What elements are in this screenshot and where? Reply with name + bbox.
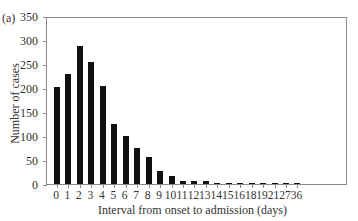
x-tick-label: 15 — [222, 189, 234, 201]
x-tick — [252, 184, 253, 188]
x-tick — [206, 184, 207, 188]
x-tick — [172, 184, 173, 188]
bar — [100, 86, 106, 184]
y-tick — [43, 185, 47, 186]
y-tick — [43, 113, 47, 114]
x-tick — [275, 184, 276, 188]
x-tick-label: 11 — [176, 189, 187, 201]
x-axis-title: Interval from onset to admission (days) — [98, 203, 287, 218]
x-tick — [114, 184, 115, 188]
x-tick-label: 36 — [291, 189, 303, 201]
x-tick — [183, 184, 184, 188]
y-tick — [43, 65, 47, 66]
x-tick-label: 9 — [156, 189, 162, 201]
x-tick-label: 0 — [53, 189, 59, 201]
x-tick-label: 21 — [268, 189, 280, 201]
y-tick-label: 100 — [8, 130, 38, 145]
y-tick-label: 50 — [8, 154, 38, 169]
x-tick — [149, 184, 150, 188]
bar — [134, 148, 140, 184]
bar — [77, 46, 83, 184]
y-tick-label: 350 — [8, 10, 38, 25]
x-tick — [263, 184, 264, 188]
x-tick — [160, 184, 161, 188]
plot-area — [46, 17, 347, 185]
x-tick — [68, 184, 69, 188]
y-tick — [43, 41, 47, 42]
x-tick — [57, 184, 58, 188]
x-tick — [240, 184, 241, 188]
x-tick-label: 16 — [233, 189, 245, 201]
y-tick — [43, 17, 47, 18]
x-tick-label: 5 — [110, 189, 116, 201]
y-tick — [43, 137, 47, 138]
x-tick — [137, 184, 138, 188]
x-tick — [80, 184, 81, 188]
y-tick-label: 300 — [8, 34, 38, 49]
bar — [54, 87, 60, 184]
y-tick-label: 250 — [8, 58, 38, 73]
bar — [88, 62, 94, 184]
x-tick — [297, 184, 298, 188]
x-tick-label: 3 — [87, 189, 93, 201]
x-tick-label: 10 — [165, 189, 177, 201]
x-tick — [217, 184, 218, 188]
bar — [111, 124, 117, 184]
x-tick — [194, 184, 195, 188]
x-tick-label: 19 — [256, 189, 268, 201]
x-tick-label: 1 — [65, 189, 71, 201]
x-tick-label: 2 — [76, 189, 82, 201]
x-tick-label: 7 — [133, 189, 139, 201]
x-tick — [91, 184, 92, 188]
x-tick-label: 13 — [199, 189, 211, 201]
y-tick — [43, 89, 47, 90]
bar — [157, 171, 163, 184]
bar — [123, 136, 129, 184]
x-tick — [229, 184, 230, 188]
x-tick-label: 27 — [279, 189, 291, 201]
y-tick-label: 150 — [8, 106, 38, 121]
x-tick — [103, 184, 104, 188]
y-tick — [43, 161, 47, 162]
x-tick-label: 12 — [188, 189, 200, 201]
x-tick-label: 14 — [211, 189, 223, 201]
bars — [47, 18, 346, 184]
bar — [65, 74, 71, 184]
bar — [146, 157, 152, 184]
x-tick-label: 8 — [145, 189, 151, 201]
y-tick-label: 200 — [8, 82, 38, 97]
y-tick-label: 0 — [8, 178, 38, 193]
x-tick-label: 4 — [99, 189, 105, 201]
x-tick — [126, 184, 127, 188]
x-tick-label: 18 — [245, 189, 257, 201]
bar — [169, 176, 175, 184]
x-tick — [286, 184, 287, 188]
x-tick-label: 6 — [122, 189, 128, 201]
